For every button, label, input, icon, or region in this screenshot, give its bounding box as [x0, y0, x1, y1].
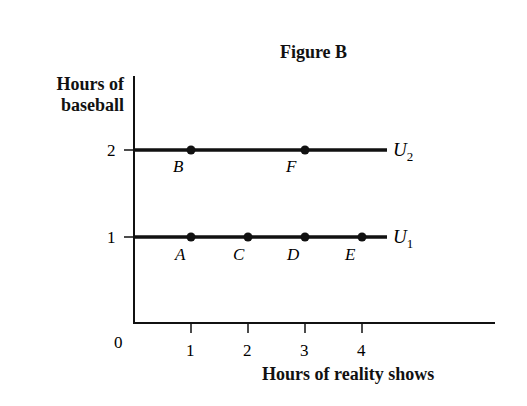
point-label-b: B	[173, 157, 184, 176]
x-tick-label: 2	[243, 341, 252, 360]
svg-text:U1: U1	[393, 226, 413, 251]
x-tick-label: 4	[357, 341, 366, 360]
x-ticks: 1 2 3 4	[186, 323, 366, 360]
x-tick-label: 1	[186, 341, 195, 360]
chart-plot: 0 1 2 3 4 1 2 B F U2 A C D E U1	[0, 0, 527, 406]
svg-text:U2: U2	[393, 139, 413, 164]
point-label-f: F	[285, 157, 297, 176]
point-label-c: C	[233, 245, 245, 264]
point-label-d: D	[286, 245, 300, 264]
y-ticks: 1 2	[107, 141, 134, 247]
indifference-curve-u2: B F U2	[134, 139, 413, 176]
indifference-curve-u1: A C D E U1	[134, 226, 413, 264]
point-label-e: E	[344, 245, 356, 264]
point-label-a: A	[174, 245, 186, 264]
x-tick-label: 3	[300, 341, 309, 360]
origin-label: 0	[114, 333, 123, 352]
y-tick-label: 1	[107, 228, 116, 247]
y-tick-label: 2	[107, 141, 116, 160]
